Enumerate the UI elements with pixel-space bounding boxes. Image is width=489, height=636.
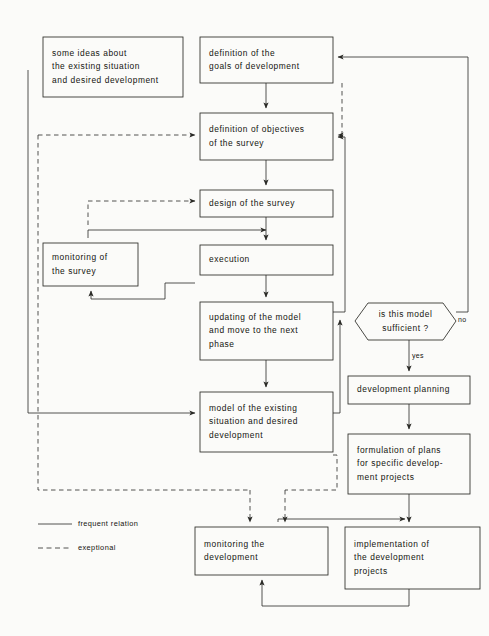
solid-connectors: [28, 57, 468, 606]
edge-dashed-model-to-implement-a: [285, 455, 337, 490]
node-box-model: [200, 392, 333, 452]
node-box-objectives: [200, 113, 333, 160]
dashed-connectors: [38, 83, 342, 522]
node-box-goals: [200, 37, 333, 83]
edge-dashed-left-spine: [38, 135, 250, 490]
legend-lines: [38, 524, 72, 548]
node-outlines: [43, 37, 480, 589]
node-box-design: [200, 190, 333, 217]
flowchart-connectors: [0, 0, 489, 636]
edge-updating-to-objectives: [333, 137, 345, 312]
edge-dashed-to-design: [88, 201, 195, 225]
edge-implement-to-monitordev: [262, 580, 409, 606]
node-box-devplanning: [348, 376, 470, 404]
node-box-updating: [200, 302, 333, 360]
edge-ideas-to-model: [28, 70, 195, 413]
node-box-ideas: [43, 37, 183, 97]
edge-updating-to-monitorsurvey-path: [91, 283, 195, 299]
edge-dashed-goals-to-objectives: [338, 83, 342, 135]
node-box-monitorsurvey: [43, 243, 138, 286]
node-box-execution: [200, 245, 333, 275]
node-hexagon-sufficient: [355, 303, 456, 340]
edge-no-back-to-goals: [338, 57, 468, 312]
flowchart-canvas: some ideas about the existing situation …: [0, 0, 489, 636]
edge-model-to-sufficient: [333, 320, 340, 413]
node-box-implement: [345, 527, 480, 589]
node-box-monitordev: [195, 527, 328, 575]
node-box-formulation: [348, 434, 470, 494]
